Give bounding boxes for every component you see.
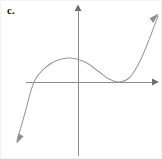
curve-start-arrow-icon (17, 134, 24, 144)
coordinate-plane-graph (1, 1, 162, 159)
y-axis-arrow-icon (75, 5, 82, 12)
graph-figure: c. (0, 0, 162, 159)
x-axis-arrow-icon (152, 79, 159, 86)
cubic-curve-path (17, 16, 158, 141)
